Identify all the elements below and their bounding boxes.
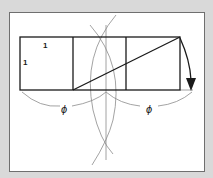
golden-ratio-diagram: 1 1 ϕ ϕ <box>0 0 213 178</box>
phi-arc-right-b <box>158 92 192 106</box>
arc-left <box>90 15 116 154</box>
label-left-side: 1 <box>23 58 28 67</box>
phi-arc-left-a <box>22 92 60 106</box>
label-phi-left: ϕ <box>61 103 67 115</box>
rotation-arc <box>180 38 191 80</box>
phi-arc-left-b <box>72 92 106 106</box>
arc-right <box>90 25 116 165</box>
arrowhead-icon <box>186 78 196 91</box>
label-top-side: 1 <box>43 41 48 50</box>
label-phi-right: ϕ <box>146 103 152 115</box>
phi-arc-right-a <box>106 92 140 106</box>
